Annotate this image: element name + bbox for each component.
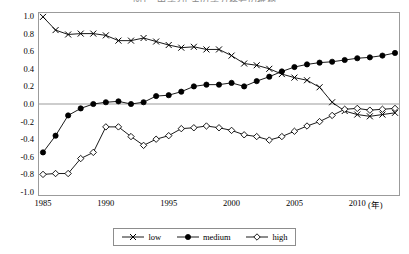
y-tick-label: 0.0 xyxy=(0,99,34,109)
filled-circle-marker xyxy=(380,53,385,58)
cross-x-marker xyxy=(40,14,46,20)
filled-circle-marker xyxy=(254,79,259,84)
legend-item-low[interactable]: low xyxy=(121,232,161,242)
open-diamond-marker xyxy=(279,133,285,139)
open-diamond-marker xyxy=(103,124,109,130)
chart-title: 図1 中学3年生の学力格差の推移 xyxy=(0,0,409,2)
filled-circle-marker xyxy=(355,56,360,61)
filled-circle-marker xyxy=(78,106,83,111)
cross-x-marker xyxy=(317,84,323,90)
filled-circle-marker xyxy=(141,100,146,105)
legend-item-medium[interactable]: medium xyxy=(176,232,231,242)
filled-circle-marker xyxy=(216,82,221,87)
legend-marker-open-diamond-marker xyxy=(245,232,269,242)
filled-circle-marker xyxy=(267,74,272,79)
y-tick-label: 0.4 xyxy=(0,64,34,74)
open-diamond-marker xyxy=(203,123,209,129)
filled-circle-marker xyxy=(204,82,209,87)
y-axis-tick-labels: 1.00.80.60.40.20.0-0.2-0.4-0.6-0.8-1.0 xyxy=(0,0,36,254)
filled-circle-marker xyxy=(317,60,322,65)
filled-circle-marker xyxy=(342,57,347,62)
y-tick-label: -0.8 xyxy=(0,169,34,179)
y-tick-label: 0.2 xyxy=(0,81,34,91)
x-tick-label: 2000 xyxy=(223,198,240,208)
open-diamond-marker xyxy=(40,171,46,177)
filled-circle-marker xyxy=(279,69,284,74)
legend-label: high xyxy=(272,232,287,242)
open-diamond-marker xyxy=(316,118,322,124)
filled-circle-marker xyxy=(304,62,309,67)
x-tick-label: 2005 xyxy=(286,198,303,208)
filled-circle-marker xyxy=(392,50,397,55)
y-tick-label: -0.4 xyxy=(0,134,34,144)
open-diamond-marker xyxy=(291,128,297,134)
y-tick-label: 1.0 xyxy=(0,11,34,21)
series-line-low xyxy=(43,17,395,116)
legend-item-high[interactable]: high xyxy=(245,232,287,242)
open-diamond-marker xyxy=(367,107,373,113)
open-diamond-marker xyxy=(228,127,234,133)
x-tick-label: 1990 xyxy=(97,198,114,208)
filled-circle-marker xyxy=(179,89,184,94)
open-diamond-marker xyxy=(191,125,197,131)
open-diamond-marker xyxy=(140,142,146,148)
cross-x-marker xyxy=(229,53,235,59)
filled-circle-marker xyxy=(66,113,71,118)
filled-circle-marker xyxy=(53,133,58,138)
filled-circle-marker xyxy=(166,93,171,98)
open-diamond-marker xyxy=(304,123,310,129)
filled-circle-marker xyxy=(185,234,190,239)
open-diamond-marker xyxy=(266,137,272,143)
cross-x-marker xyxy=(53,27,59,33)
open-diamond-marker xyxy=(241,132,247,138)
filled-circle-marker xyxy=(154,93,159,98)
open-diamond-marker xyxy=(254,133,260,139)
x-tick-label: 1995 xyxy=(160,198,177,208)
open-diamond-marker xyxy=(254,234,260,240)
legend-marker-filled-circle-marker xyxy=(176,232,200,242)
x-tick-label: 1985 xyxy=(35,198,52,208)
cross-x-marker xyxy=(153,39,159,45)
filled-circle-marker xyxy=(91,101,96,106)
filled-circle-marker xyxy=(242,84,247,89)
open-diamond-marker xyxy=(90,149,96,155)
y-tick-label: -0.6 xyxy=(0,152,34,162)
plot-svg xyxy=(39,13,399,195)
open-diamond-marker xyxy=(216,125,222,131)
open-diamond-marker xyxy=(354,105,360,111)
x-axis-unit-label: (年) xyxy=(368,198,383,210)
open-diamond-marker xyxy=(166,132,172,138)
series-line-high xyxy=(43,108,395,174)
filled-circle-marker xyxy=(116,99,121,104)
open-diamond-marker xyxy=(178,125,184,131)
y-tick-label: -1.0 xyxy=(0,187,34,197)
x-axis-tick-labels: 198519901995200020052010 xyxy=(0,198,409,212)
y-tick-label: 0.6 xyxy=(0,46,34,56)
filled-circle-marker xyxy=(330,59,335,64)
filled-circle-marker xyxy=(40,150,45,155)
cross-x-marker xyxy=(266,66,272,72)
series-medium xyxy=(40,50,397,155)
legend-label: medium xyxy=(203,232,231,242)
series-high xyxy=(40,105,398,177)
filled-circle-marker xyxy=(229,80,234,85)
plot-area xyxy=(38,12,400,196)
open-diamond-marker xyxy=(52,170,58,176)
y-tick-label: 0.8 xyxy=(0,29,34,39)
filled-circle-marker xyxy=(367,55,372,60)
filled-circle-marker xyxy=(103,100,108,105)
open-diamond-marker xyxy=(329,112,335,118)
filled-circle-marker xyxy=(191,84,196,89)
legend-marker-cross-x-marker xyxy=(121,232,145,242)
chart-legend: lowmediumhigh xyxy=(113,228,296,246)
filled-circle-marker xyxy=(292,64,297,69)
x-tick-label: 2010 xyxy=(349,198,366,208)
open-diamond-marker xyxy=(379,106,385,112)
open-diamond-marker xyxy=(153,136,159,142)
y-tick-label: -0.2 xyxy=(0,117,34,127)
chart-container: 図1 中学3年生の学力格差の推移 1.00.80.60.40.20.0-0.2-… xyxy=(0,0,409,254)
filled-circle-marker xyxy=(128,101,133,106)
legend-label: low xyxy=(148,232,161,242)
